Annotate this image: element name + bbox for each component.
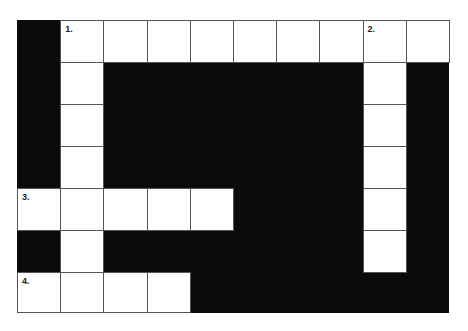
crossword-cell[interactable] [190,20,234,63]
crossword-cell[interactable] [276,20,320,63]
clue-number: 4. [22,276,30,286]
crossword-cell[interactable] [363,104,407,147]
crossword-cell[interactable] [363,62,407,105]
crossword-cell[interactable] [60,62,104,105]
crossword-cell[interactable]: 1. [60,20,104,63]
crossword-cell[interactable] [60,188,104,231]
crossword-cell[interactable] [190,188,234,231]
crossword-cell[interactable]: 3. [17,188,61,231]
crossword-grid: 1.2.3.4. [17,20,449,313]
crossword-cell[interactable] [103,20,147,63]
crossword-cell[interactable] [363,188,407,231]
crossword-cell[interactable] [363,230,407,273]
clue-number: 1. [65,24,73,34]
crossword-cell[interactable] [147,272,191,313]
crossword-cell[interactable] [147,20,191,63]
clue-number: 3. [22,192,30,202]
crossword-cell[interactable]: 2. [363,20,407,63]
crossword-cell[interactable] [60,104,104,147]
crossword-cell[interactable] [60,230,104,273]
crossword-cell[interactable]: 4. [17,272,61,313]
crossword-cell[interactable] [406,20,450,63]
crossword-cell[interactable] [60,146,104,189]
crossword-cell[interactable] [60,272,104,313]
clue-number: 2. [368,24,376,34]
crossword-cell[interactable] [103,188,147,231]
crossword-cell[interactable] [363,146,407,189]
crossword-cell[interactable] [103,272,147,313]
crossword-cell[interactable] [147,188,191,231]
crossword-cell[interactable] [319,20,363,63]
crossword-cell[interactable] [233,20,277,63]
